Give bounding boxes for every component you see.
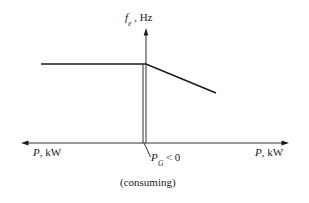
operating-point-subscript: G [158,159,163,168]
y-axis-arrowhead [144,28,149,36]
x-axis-label-right-variable: P [255,146,262,158]
x-axis-label-right: P, kW [255,147,283,158]
x-axis-left-arrowhead [21,141,29,146]
y-axis-label-separator: , [131,11,139,23]
x-axis-label-left: P, kW [33,147,61,158]
droop-characteristic-curve [41,64,216,93]
droop-characteristic-figure: fe , Hz P, kW P, kW PG < 0 (consuming) [0,0,309,203]
plot-canvas [0,0,309,203]
y-axis-group [144,28,149,143]
x-axis-right-arrowhead [282,141,290,146]
x-axis-label-left-unit: kW [45,146,61,158]
y-axis-label: fe , Hz [125,12,152,26]
operating-point-leader-line [144,143,151,157]
figure-caption: (consuming) [120,177,176,188]
x-axis-group [21,141,289,146]
y-axis-label-subscript: e [128,19,131,28]
operating-point-variable: P [151,151,158,163]
x-axis-label-right-unit: kW [267,146,283,158]
x-axis-label-left-variable: P [33,146,40,158]
operating-point-label: PG < 0 [151,152,180,166]
operating-point-relation: < 0 [163,151,180,163]
y-axis-label-unit: Hz [140,11,153,23]
